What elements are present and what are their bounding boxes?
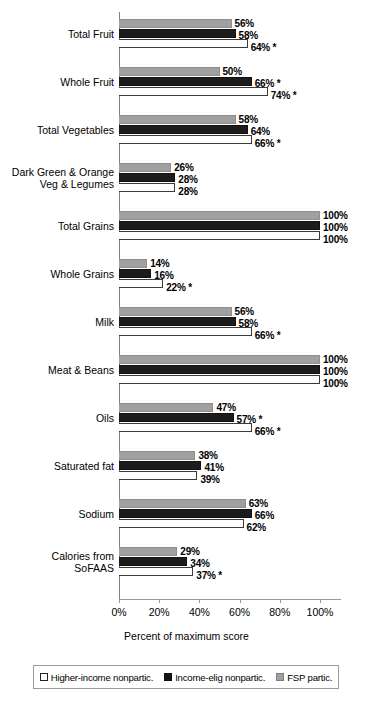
x-axis-tick — [199, 599, 200, 603]
bar-ien[interactable] — [119, 269, 151, 278]
category-label: Meat & Beans — [0, 364, 114, 376]
bar-ien[interactable] — [119, 365, 320, 374]
bar-ien[interactable] — [119, 317, 236, 326]
bar-hin[interactable] — [119, 567, 193, 576]
legend-label: Higher-income nonpartic. — [51, 672, 153, 683]
bar-value-label: 56% — [235, 307, 254, 316]
legend-swatch-icon — [164, 673, 172, 681]
legend-swatch-icon — [40, 673, 48, 681]
x-tick-label: 60% — [220, 606, 260, 618]
legend-item-fsp[interactable]: FSP partic. — [276, 672, 332, 683]
bar-ien[interactable] — [119, 557, 187, 566]
bar-value-label: 56% — [235, 19, 254, 28]
category-label: Total Grains — [0, 220, 114, 232]
category-label: Whole Fruit — [0, 76, 114, 88]
x-tick-label: 40% — [179, 606, 219, 618]
bar-ien[interactable] — [119, 125, 248, 134]
legend-swatch-icon — [276, 673, 284, 681]
x-axis-line — [119, 599, 341, 600]
bar-ien[interactable] — [119, 77, 252, 86]
bar-fsp[interactable] — [119, 163, 171, 172]
bar-value-label: 41% — [204, 463, 223, 472]
bar-value-label: 66% * — [255, 427, 281, 436]
chart-legend: Higher-income nonpartic. Income-elig non… — [33, 665, 339, 689]
legend-item-hin[interactable]: Higher-income nonpartic. — [40, 672, 153, 683]
bar-fsp[interactable] — [119, 403, 213, 412]
x-tick-label: 80% — [260, 606, 300, 618]
bar-hin[interactable] — [119, 183, 175, 192]
bar-fsp[interactable] — [119, 67, 220, 76]
category-label: Oils — [0, 412, 114, 424]
plot-area: 56%58%64% *50%66% *74% *58%64%66% *26%28… — [119, 12, 320, 599]
bar-value-label: 74% * — [271, 91, 297, 100]
bar-group: 38%41%39% — [119, 451, 320, 480]
bar-value-label: 28% — [178, 175, 197, 184]
bar-group: 100%100%100% — [119, 211, 320, 240]
bar-hin[interactable] — [119, 279, 163, 288]
bar-ien[interactable] — [119, 29, 236, 38]
bar-fsp[interactable] — [119, 451, 195, 460]
bar-hin[interactable] — [119, 39, 248, 48]
bar-hin[interactable] — [119, 135, 252, 144]
bar-hin[interactable] — [119, 231, 320, 240]
bar-hin[interactable] — [119, 519, 244, 528]
bar-value-label: 100% — [323, 211, 348, 220]
bar-fsp[interactable] — [119, 355, 320, 364]
bar-value-label: 63% — [249, 499, 268, 508]
bar-value-label: 66% * — [255, 139, 281, 148]
bar-ien[interactable] — [119, 413, 234, 422]
x-axis-tick — [240, 599, 241, 603]
bar-value-label: 64% — [251, 127, 270, 136]
bar-value-label: 29% — [180, 547, 199, 556]
legend-item-ien[interactable]: Income-elig nonpartic. — [164, 672, 265, 683]
bar-ien[interactable] — [119, 221, 320, 230]
bar-group: 56%58%64% * — [119, 19, 320, 48]
bar-value-label: 100% — [323, 235, 348, 244]
bar-hin[interactable] — [119, 375, 320, 384]
category-label: Milk — [0, 316, 114, 328]
bar-fsp[interactable] — [119, 307, 232, 316]
bar-fsp[interactable] — [119, 547, 177, 556]
bar-hin[interactable] — [119, 327, 252, 336]
bar-value-label: 47% — [216, 403, 235, 412]
bar-hin[interactable] — [119, 423, 252, 432]
bar-group: 100%100%100% — [119, 355, 320, 384]
chart-container: 56%58%64% *50%66% *74% *58%64%66% *26%28… — [0, 0, 373, 702]
bar-value-label: 100% — [323, 367, 348, 376]
bar-value-label: 38% — [198, 451, 217, 460]
x-axis-tick — [159, 599, 160, 603]
bar-ien[interactable] — [119, 509, 252, 518]
bar-value-label: 14% — [150, 259, 169, 268]
bar-value-label: 22% * — [166, 283, 192, 292]
bar-group: 29%34%37% * — [119, 547, 320, 576]
bar-value-label: 62% — [247, 523, 266, 532]
bar-value-label: 100% — [323, 355, 348, 364]
category-label: Dark Green & Orange Veg & Legumes — [0, 166, 114, 190]
bar-value-label: 66% * — [255, 331, 281, 340]
bar-fsp[interactable] — [119, 19, 232, 28]
category-label: Saturated fat — [0, 460, 114, 472]
x-axis-tick — [320, 599, 321, 603]
bar-value-label: 64% * — [251, 43, 277, 52]
bar-fsp[interactable] — [119, 211, 320, 220]
bar-hin[interactable] — [119, 87, 268, 96]
category-label: Total Fruit — [0, 28, 114, 40]
bar-value-label: 26% — [174, 163, 193, 172]
x-tick-label: 100% — [300, 606, 340, 618]
category-label: Calories from SoFAAS — [0, 550, 114, 574]
bar-fsp[interactable] — [119, 499, 246, 508]
x-axis-title: Percent of maximum score — [0, 630, 373, 642]
bar-value-label: 37% * — [196, 571, 222, 580]
x-axis-tick — [280, 599, 281, 603]
x-tick-label: 0% — [99, 606, 139, 618]
bar-group: 63%66%62% — [119, 499, 320, 528]
bar-group: 56%58%66% * — [119, 307, 320, 336]
bar-value-label: 39% — [200, 475, 219, 484]
bar-hin[interactable] — [119, 471, 197, 480]
bar-ien[interactable] — [119, 461, 201, 470]
bar-fsp[interactable] — [119, 259, 147, 268]
bar-group: 47%57% *66% * — [119, 403, 320, 432]
bar-value-label: 100% — [323, 379, 348, 388]
bar-ien[interactable] — [119, 173, 175, 182]
bar-fsp[interactable] — [119, 115, 236, 124]
